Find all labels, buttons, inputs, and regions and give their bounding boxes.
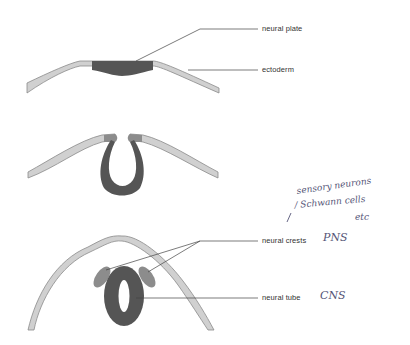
handwritten-slash [287, 213, 291, 222]
stage-neural-tube [28, 236, 258, 330]
cut-off-caption [0, 337, 410, 345]
annotation-etc: etc [355, 212, 369, 222]
label-neural-tube: neural tube [262, 293, 301, 302]
leader-neural-plate [136, 29, 200, 61]
neural-crest-tip-right-2 [128, 134, 142, 142]
label-neural-crests: neural crests [262, 236, 306, 245]
annotation-pns: PNS [323, 231, 348, 244]
annotation-cns: CNS [320, 289, 346, 302]
neural-groove [100, 140, 143, 196]
label-neural-plate: neural plate [262, 24, 302, 33]
neural-canal [119, 280, 130, 312]
neural-plate-region [92, 61, 153, 76]
neural-tube-formation-diagram: neural plate ectoderm neural crests neur… [0, 0, 410, 345]
label-ectoderm: ectoderm [262, 65, 294, 74]
leader-crest-left [106, 241, 200, 270]
stage-neural-plate [27, 29, 258, 93]
stage-neural-groove [28, 134, 218, 196]
